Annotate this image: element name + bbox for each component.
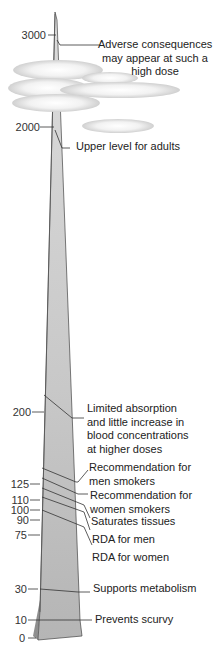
annotation-limited-absorption: Limited absorption and little increase i…	[87, 402, 189, 456]
annotation-upper-level: Upper level for adults	[76, 140, 180, 154]
annotation-adverse: Adverse consequences may appear at such …	[98, 38, 212, 79]
annotation-supports-metabolism: Supports metabolism	[93, 582, 196, 596]
tick-label-200: 200	[5, 406, 31, 418]
annotation-rda-women: RDA for women	[92, 551, 169, 565]
annotation-prevents-scurvy: Prevents scurvy	[95, 613, 173, 627]
tick-label-3000: 3000	[20, 29, 46, 41]
tick-label-30: 30	[1, 583, 27, 595]
annotation-men-smokers: Recommendation for men smokers	[89, 461, 191, 488]
tick-label-125: 125	[3, 478, 29, 490]
annotation-saturates-tissues: Saturates tissues	[91, 515, 175, 529]
annotation-rda-men: RDA for men	[92, 533, 155, 547]
tick-label-0: 0	[0, 632, 25, 644]
tick-label-2000: 2000	[14, 121, 40, 133]
tick-label-10: 10	[1, 614, 27, 626]
annotation-women-smokers: Recommendation for women smokers	[90, 489, 192, 516]
tick-label-90: 90	[3, 514, 29, 526]
tick-label-75: 75	[1, 529, 27, 541]
